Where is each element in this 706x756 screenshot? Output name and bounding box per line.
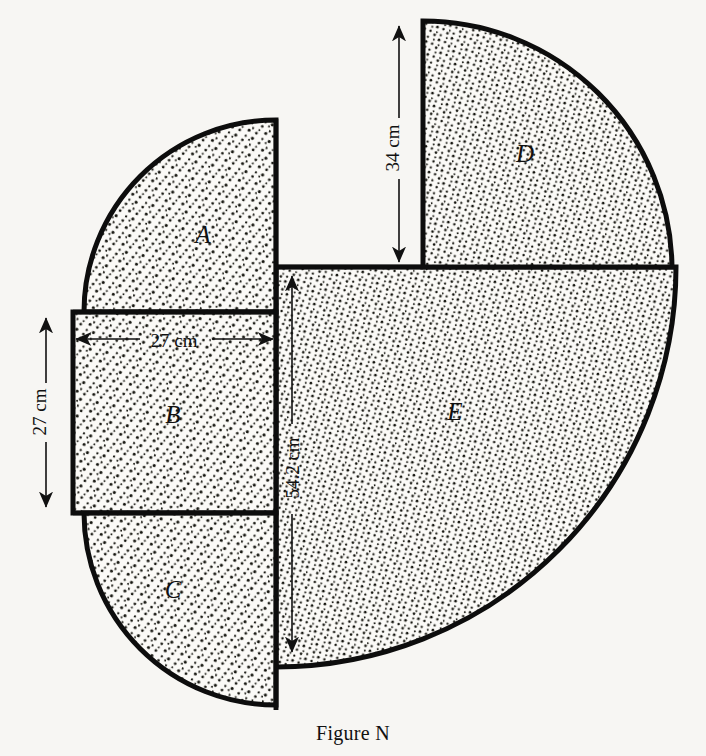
region-e bbox=[276, 267, 676, 667]
dimension-label-height-34: 34 cm bbox=[382, 124, 403, 171]
region-a bbox=[84, 120, 276, 312]
region-label-a: A bbox=[193, 221, 211, 248]
region-d bbox=[423, 21, 672, 267]
region-label-e: E bbox=[446, 398, 462, 425]
region-label-c: C bbox=[165, 576, 182, 603]
figure-n-diagram: A B C D E 27 cm 27 cm 34 cm 54.2 cm bbox=[0, 0, 706, 756]
dimension-height-34: 34 cm bbox=[382, 26, 403, 262]
region-label-b: B bbox=[165, 401, 180, 428]
dimension-label-height-54-2: 54.2 cm bbox=[282, 437, 303, 498]
region-c bbox=[84, 513, 276, 705]
dimension-label-height-27: 27 cm bbox=[29, 388, 50, 435]
figure-caption: Figure N bbox=[0, 722, 706, 745]
dimension-height-27: 27 cm bbox=[29, 318, 50, 507]
dimension-label-width-27: 27 cm bbox=[151, 330, 198, 351]
figure-svg: A B C D E 27 cm 27 cm 34 cm 54.2 cm bbox=[0, 0, 706, 756]
region-label-d: D bbox=[515, 140, 534, 167]
